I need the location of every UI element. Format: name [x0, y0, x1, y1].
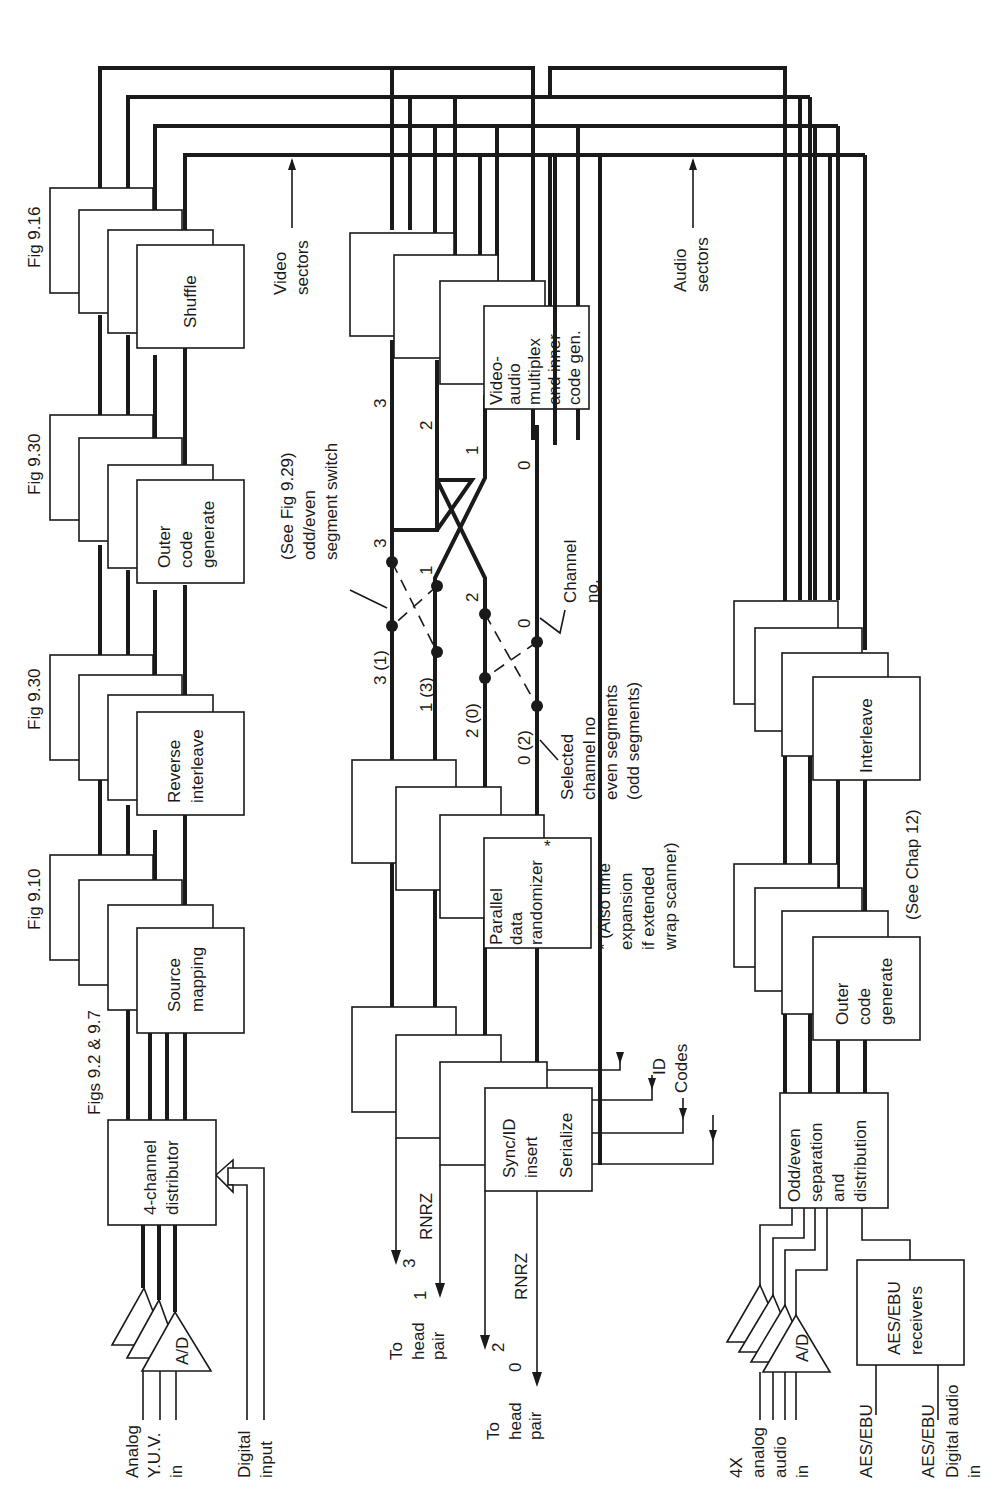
- randomizer-label-1: Parallel: [487, 888, 506, 945]
- head-pair-a-2: head: [409, 1322, 428, 1360]
- chapter-ref-label: (See Chap 12): [903, 809, 922, 920]
- switch-note-1: (See Fig 9.29): [278, 452, 297, 560]
- mux-label-2: audio: [505, 363, 524, 405]
- reverse-interleave-label-1: Reverse: [165, 740, 184, 803]
- sync-id-stack: [352, 1007, 592, 1191]
- audio-sectors-label-1: Audio: [671, 249, 690, 292]
- channel-label-mid-0: 0: [515, 619, 534, 628]
- separation-label-1: Odd/even: [785, 1128, 804, 1202]
- audio-sectors-label-2: sectors: [693, 237, 712, 292]
- fig-ref-reverse-interleave: Fig 9.30: [25, 669, 44, 730]
- output-ch2-label: 2: [489, 1343, 508, 1352]
- audio-analog-label-1: 4X: [727, 1457, 746, 1478]
- randomizer-stack: [352, 760, 591, 948]
- channel-label-right-2: 2: [417, 421, 436, 430]
- randomizer-label-3: randomizer: [527, 860, 546, 945]
- channel-label-left-0: 0 (2): [515, 730, 534, 765]
- digital-input-label-2: input: [257, 1441, 276, 1478]
- aes-ebu-input-1: AES/EBU: [857, 1404, 876, 1478]
- video-sectors-label-1: Video: [271, 252, 290, 295]
- output-ch1-label: 1: [411, 1291, 430, 1300]
- channel-label-right-3: 3: [371, 399, 390, 408]
- sync-label-2: insert: [522, 1136, 541, 1178]
- randomizer-star: *: [544, 837, 551, 856]
- receivers-label-1: AES/EBU: [885, 1281, 904, 1355]
- video-analog-input-label-2: Y.U.V.: [145, 1433, 164, 1478]
- channel-label-left-3: 3 (1): [371, 650, 390, 685]
- video-analog-input-label-1: Analog: [123, 1425, 142, 1478]
- audio-analog-label-3: audio: [771, 1436, 790, 1478]
- channel-label-mid-2: 2: [463, 593, 482, 602]
- id-codes-label-2: Codes: [672, 1044, 691, 1093]
- randomizer-note-3: if extended: [639, 867, 658, 950]
- switch-note-2: odd/even: [300, 490, 319, 560]
- randomizer-label-2: data: [507, 911, 526, 945]
- audio-outer-code-label-1: Outer: [833, 982, 852, 1025]
- channel-label-left-2: 2 (0): [463, 703, 482, 738]
- selected-note-4: (odd segments): [624, 682, 643, 800]
- randomizer-note-1: * (Also time: [595, 863, 614, 950]
- segment-switch: [386, 556, 543, 712]
- selected-note-2: channel no: [580, 717, 599, 800]
- sync-label-3: Serialize: [557, 1113, 576, 1178]
- audio-analog-label-2: analog: [749, 1427, 768, 1478]
- mux-label-5: code gen.: [565, 330, 584, 405]
- selected-note-1: Selected: [558, 734, 577, 800]
- digital-audio-label-2: in: [965, 1465, 984, 1478]
- shuffle-label: Shuffle: [181, 275, 200, 328]
- distributor-label-2: distributor: [163, 1140, 182, 1215]
- block-diagram: Figs 9.2 & 9.7 Fig 9.10 Fig 9.30 Fig 9.3…: [0, 0, 1007, 1509]
- source-mapping-label-1: Source: [165, 958, 184, 1012]
- switch-note-3: segment switch: [322, 443, 341, 560]
- sync-label-1: Sync/ID: [500, 1118, 519, 1178]
- distributor-box: [108, 1120, 216, 1225]
- audio-adc-group: A/D: [727, 1208, 830, 1420]
- reverse-interleave-label-2: interleave: [188, 729, 207, 803]
- source-mapping-label-2: mapping: [188, 947, 207, 1012]
- video-sectors-label-2: sectors: [293, 240, 312, 295]
- fig-ref-outer-code: Fig 9.30: [25, 434, 44, 495]
- audio-analog-label-4: in: [793, 1465, 812, 1478]
- digital-input-arrow-icon: [216, 1160, 264, 1420]
- video-outer-code-label-3: generate: [199, 501, 218, 568]
- mux-label-3: multiplex: [525, 337, 544, 405]
- interleave-label: Interleave: [857, 698, 876, 773]
- digital-audio-label-1: Digital audio: [943, 1384, 962, 1478]
- audio-sectors-arrow-icon: [689, 158, 697, 170]
- channel-label-left-1: 1 (3): [417, 677, 436, 712]
- channel-label-mid-1: 1: [417, 566, 436, 575]
- audio-adc-label: A/D: [793, 1334, 812, 1362]
- head-pair-a-3: pair: [429, 1331, 448, 1360]
- mux-label-1: Video-: [487, 356, 506, 405]
- fig-ref-distributor: Figs 9.2 & 9.7: [85, 1010, 104, 1115]
- output-ch0-label: 0: [506, 1363, 525, 1372]
- rnrz-label-b: RNRZ: [512, 1253, 531, 1300]
- video-adc-group: A/D: [112, 1225, 211, 1420]
- video-outer-code-label-2: code: [177, 531, 196, 568]
- fig-ref-source-mapping: Fig 9.10: [25, 869, 44, 930]
- shuffle-stack: [50, 188, 244, 348]
- separation-label-4: distribution: [851, 1120, 870, 1202]
- channel-label-right-0: 0: [515, 461, 534, 470]
- fig-ref-shuffle: Fig 9.16: [25, 207, 44, 268]
- randomizer-note-2: expansion: [617, 872, 636, 950]
- head-pair-a-1: To: [387, 1342, 406, 1360]
- channel-note-2: no.: [583, 579, 602, 603]
- channel-label-right-1: 1: [463, 446, 482, 455]
- reverse-interleave-stack: [50, 655, 244, 815]
- receivers-link: [862, 1208, 910, 1260]
- head-pair-b-2: head: [506, 1402, 525, 1440]
- separation-label-2: separation: [807, 1123, 826, 1202]
- video-adc-label: A/D: [173, 1337, 192, 1365]
- separation-label-3: and: [829, 1174, 848, 1202]
- interleave-stack: [734, 601, 920, 780]
- source-mapping-stack: [50, 855, 244, 1033]
- video-analog-input-label-3: in: [167, 1465, 186, 1478]
- receivers-label-2: receivers: [907, 1286, 926, 1355]
- digital-input-label-1: Digital: [235, 1431, 254, 1478]
- channel-note-1: Channel: [561, 540, 580, 603]
- output-ch3-label: 3: [400, 1259, 419, 1268]
- id-codes-label-1: ID: [650, 1058, 669, 1075]
- head-pair-b-3: pair: [526, 1411, 545, 1440]
- randomizer-note-4: wrap scanner): [661, 842, 680, 951]
